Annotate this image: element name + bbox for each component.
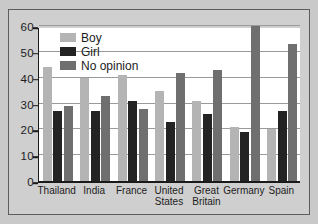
chart-legend: BoyGirlNo opinion (60, 31, 138, 73)
bar (139, 109, 148, 181)
y-axis-tick-label: 10 (8, 151, 34, 163)
bar (91, 111, 100, 181)
gridline (39, 25, 300, 26)
bar (251, 26, 260, 181)
bar (288, 44, 297, 181)
legend-label: Girl (81, 46, 100, 58)
bar (118, 75, 127, 181)
bar (155, 91, 164, 181)
bar (43, 67, 52, 181)
bar (278, 111, 287, 181)
legend-label: Boy (81, 32, 102, 44)
bar (192, 101, 201, 181)
bar (267, 129, 276, 181)
bar (101, 96, 110, 181)
bar (128, 101, 137, 181)
y-axis-tick-label: 40 (8, 74, 34, 86)
bar-group (192, 28, 222, 181)
bar-group (155, 28, 185, 181)
legend-item: Boy (60, 31, 138, 44)
legend-swatch-icon (60, 47, 76, 56)
bar (166, 122, 175, 181)
y-axis-tick-label: 30 (8, 100, 34, 112)
y-axis-tick-label: 0 (8, 177, 34, 189)
legend-item: No opinion (60, 59, 138, 72)
bar (64, 106, 73, 181)
bar (53, 111, 62, 181)
y-axis-tick-label: 20 (8, 126, 34, 138)
chart-figure: 0102030405060 ThailandIndiaFranceUnited … (0, 0, 318, 224)
y-axis-tick-label: 60 (8, 22, 34, 34)
bar (240, 132, 249, 181)
y-axis-tick-label: 50 (8, 48, 34, 60)
legend-swatch-icon (60, 33, 76, 42)
bar-group (230, 28, 260, 181)
bar (213, 70, 222, 181)
bar (203, 114, 212, 181)
bar-group (267, 28, 297, 181)
x-axis-tick-label: Spain (258, 186, 304, 197)
bar (80, 78, 89, 181)
legend-swatch-icon (60, 61, 76, 70)
legend-label: No opinion (81, 60, 138, 72)
bar (230, 127, 239, 181)
legend-item: Girl (60, 45, 138, 58)
bar (176, 73, 185, 182)
